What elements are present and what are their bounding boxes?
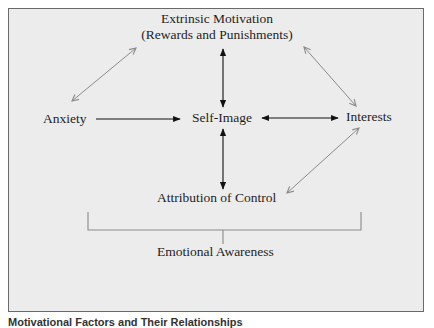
figure-caption: Motivational Factors and Their Relations… — [8, 316, 243, 328]
arrow-extrinsic-motivation-interests — [304, 47, 356, 106]
extrinsic-motivation-subtitle: (Rewards and Punishments) — [0, 27, 434, 43]
arrow-anxiety-extrinsic-motivation — [72, 48, 136, 101]
figure-caption-text: Motivational Factors and Their Relations… — [8, 316, 243, 328]
node-self-image: Self-Image — [192, 110, 252, 126]
arrow-interests-attribution — [287, 128, 359, 193]
node-interests: Interests — [346, 109, 392, 125]
node-anxiety: Anxiety — [43, 111, 87, 127]
node-emotional-awareness: Emotional Awareness — [157, 244, 274, 260]
node-attribution-of-control: Attribution of Control — [157, 190, 276, 206]
emotional-awareness-bracket — [88, 212, 361, 244]
node-extrinsic-motivation: Extrinsic Motivation (Rewards and Punish… — [0, 11, 434, 43]
extrinsic-motivation-title: Extrinsic Motivation — [0, 11, 434, 27]
